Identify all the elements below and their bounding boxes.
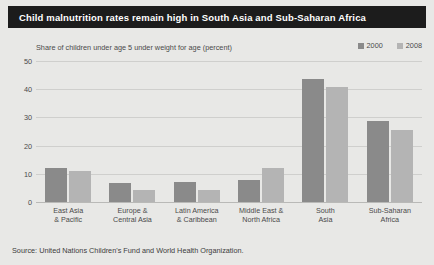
legend-item-2000[interactable]: 2000 [358, 42, 383, 49]
bar-group [293, 62, 357, 203]
bar-2008[interactable] [262, 168, 284, 203]
y-axis-tick-30: 30 [24, 113, 32, 122]
category-label: Middle East &North Africa [229, 206, 293, 225]
legend-label-2000: 2000 [367, 42, 383, 49]
category-label: Sub-SaharanAfrica [358, 206, 422, 225]
y-axis-tick-50: 50 [24, 57, 32, 66]
category-label-line: Asia [293, 215, 357, 224]
chart-legend: 20002008 [358, 42, 422, 49]
category-label-line: Africa [358, 215, 422, 224]
chart-title-bar: Child malnutrition rates remain high in … [8, 6, 426, 28]
category-label-line: Sub-Saharan [358, 206, 422, 215]
legend-label-2008: 2008 [406, 42, 422, 49]
category-label-line: South [293, 206, 357, 215]
chart-figure: Child malnutrition rates remain high in … [0, 0, 434, 265]
bar-2000[interactable] [302, 79, 324, 203]
y-axis-tick-20: 20 [24, 141, 32, 150]
bar-group [36, 62, 100, 203]
bar-2000[interactable] [174, 182, 196, 203]
legend-swatch-2008 [397, 43, 403, 49]
category-label-line: North Africa [229, 215, 293, 224]
x-axis-line [36, 202, 422, 203]
bar-2000[interactable] [367, 121, 389, 203]
source-note: Source: United Nations Children's Fund a… [12, 246, 244, 255]
y-axis-tick-40: 40 [24, 85, 32, 94]
category-label: East Asia& Pacific [36, 206, 100, 225]
x-axis-category-labels: East Asia& PacificEurope &Central AsiaLa… [36, 206, 422, 225]
category-label: Europe &Central Asia [100, 206, 164, 225]
y-axis-tick-0: 0 [28, 198, 32, 207]
category-label: SouthAsia [293, 206, 357, 225]
bar-group [165, 62, 229, 203]
category-label-line: Middle East & [229, 206, 293, 215]
bar-group [229, 62, 293, 203]
bar-2000[interactable] [238, 180, 260, 203]
page-title: Child malnutrition rates remain high in … [19, 12, 366, 23]
chart-subtitle: Share of children under age 5 under weig… [36, 43, 232, 52]
category-label-line: Europe & [100, 206, 164, 215]
y-axis-tick-10: 10 [24, 169, 32, 178]
bar-2000[interactable] [109, 183, 131, 203]
bar-2008[interactable] [391, 130, 413, 203]
bar-2008[interactable] [326, 87, 348, 203]
bar-2008[interactable] [69, 171, 91, 203]
bar-groups [36, 62, 422, 203]
category-label-line: & Caribbean [165, 215, 229, 224]
category-label-line: Latin America [165, 206, 229, 215]
legend-swatch-2000 [358, 43, 364, 49]
category-label-line: & Pacific [36, 215, 100, 224]
category-label: Latin America& Caribbean [165, 206, 229, 225]
category-label-line: Central Asia [100, 215, 164, 224]
legend-item-2008[interactable]: 2008 [397, 42, 422, 49]
bar-2000[interactable] [45, 168, 67, 203]
plot-area: 01020304050 [36, 62, 422, 203]
bar-group [100, 62, 164, 203]
bar-group [358, 62, 422, 203]
category-label-line: East Asia [36, 206, 100, 215]
